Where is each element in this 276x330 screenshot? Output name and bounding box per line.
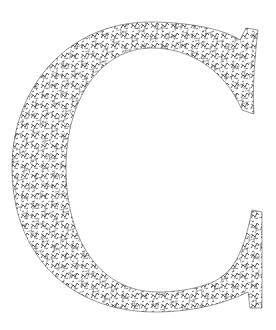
letter-c-graphic	[0, 0, 276, 330]
letter-c-illustration: C	[0, 0, 276, 330]
